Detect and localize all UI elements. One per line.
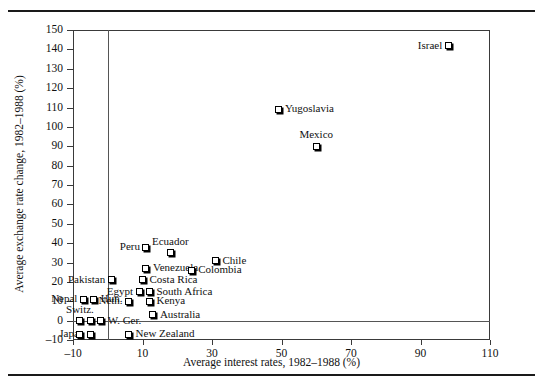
scatter-marker	[80, 296, 87, 303]
x-axis-tick	[212, 340, 213, 345]
y-axis-tick	[67, 321, 73, 322]
x-axis-tick	[73, 340, 74, 345]
y-axis-tick-label: 0	[23, 315, 63, 327]
scatter-marker	[142, 265, 149, 272]
y-axis-tick	[67, 127, 73, 128]
point-label: Australia	[160, 309, 200, 320]
scatter-marker	[97, 317, 104, 324]
y-axis-tick	[67, 108, 73, 109]
x-axis-tick	[143, 340, 144, 345]
point-label: Costa Rica	[150, 274, 198, 285]
y-axis-tick	[67, 185, 73, 186]
scatter-marker	[149, 311, 156, 318]
point-label: Switz.	[66, 304, 94, 315]
y-axis-tick-label: 80	[23, 160, 63, 172]
y-axis-title: Average exchange rate change, 1982–1988 …	[13, 44, 25, 324]
y-axis-tick-label: 50	[23, 218, 63, 230]
y-axis-tick-label: 90	[23, 140, 63, 152]
y-axis-tick	[67, 30, 73, 31]
scatter-marker	[275, 106, 282, 113]
scatter-marker	[146, 298, 153, 305]
point-label: Colombia	[198, 264, 241, 275]
y-axis-tick-label: 40	[23, 237, 63, 249]
bottom-horizontal-rule	[8, 374, 535, 376]
y-axis-tick-label: 70	[23, 179, 63, 191]
y-axis-tick-label: –10	[23, 334, 63, 346]
x-axis-tick	[490, 340, 491, 345]
scatter-marker	[125, 331, 132, 338]
scatter-marker	[87, 317, 94, 324]
scatter-marker	[76, 317, 83, 324]
point-label: Kenya	[156, 295, 185, 306]
x-axis-title: Average interest rates, 1982–1988 (%)	[0, 356, 543, 368]
top-horizontal-rule	[8, 10, 535, 12]
y-axis-tick-label: 20	[23, 276, 63, 288]
y-axis-tick-label: 140	[23, 43, 63, 55]
y-axis-tick	[67, 69, 73, 70]
point-label: W. Ger.	[108, 315, 142, 326]
point-label: Israel	[418, 40, 442, 51]
y-axis-tick-label: 130	[23, 63, 63, 75]
point-label: Pakistan	[68, 274, 105, 285]
scatter-marker	[142, 244, 149, 251]
scatter-marker	[87, 331, 94, 338]
point-label: Yugoslavia	[285, 103, 334, 114]
y-axis-tick-label: 60	[23, 198, 63, 210]
y-axis-tick	[67, 88, 73, 89]
x-axis-tick	[421, 340, 422, 345]
x-axis-tick	[351, 340, 352, 345]
scatter-marker	[445, 42, 452, 49]
y-axis-tick-label: 150	[23, 24, 63, 36]
point-label: Ecuador	[152, 236, 189, 247]
scatter-marker	[136, 288, 143, 295]
point-label: Mexico	[299, 129, 333, 140]
scatter-marker	[313, 143, 320, 150]
point-label: Peru	[120, 241, 140, 252]
y-axis-tick	[67, 243, 73, 244]
scatter-marker	[146, 288, 153, 295]
y-axis-tick	[67, 224, 73, 225]
point-label: Neth.	[98, 295, 122, 306]
scatter-marker	[139, 276, 146, 283]
y-axis-tick-label: 100	[23, 121, 63, 133]
y-axis-tick	[67, 146, 73, 147]
y-axis-tick	[67, 49, 73, 50]
y-axis-tick-label: 120	[23, 82, 63, 94]
point-label: New Zealand	[136, 328, 195, 339]
y-axis-tick	[67, 166, 73, 167]
scatter-marker	[108, 276, 115, 283]
scatter-marker	[125, 298, 132, 305]
scatter-marker	[76, 331, 83, 338]
y-axis-tick-label: 110	[23, 102, 63, 114]
y-axis-tick	[67, 263, 73, 264]
x-axis-tick	[282, 340, 283, 345]
y-axis-tick-label: 30	[23, 257, 63, 269]
scatter-marker	[167, 249, 174, 256]
y-axis-tick	[67, 204, 73, 205]
figure: –100102030405060708090100110120130140150…	[0, 0, 543, 392]
scatter-marker	[90, 296, 97, 303]
